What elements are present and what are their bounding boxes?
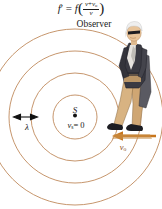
wavelength-label: λ — [20, 122, 34, 132]
observer-velocity-sub: o — [123, 146, 126, 152]
wavelength-arrow — [14, 114, 38, 120]
observer-figure — [107, 21, 152, 139]
source-velocity-label: vs= 0 — [56, 120, 96, 130]
source-velocity-equals: = 0 — [73, 120, 84, 130]
observer-velocity-label: vo — [112, 142, 134, 152]
doppler-effect-diagram: f′ = f(v+vov) Observer — [0, 0, 162, 209]
source-label: S — [68, 105, 82, 115]
